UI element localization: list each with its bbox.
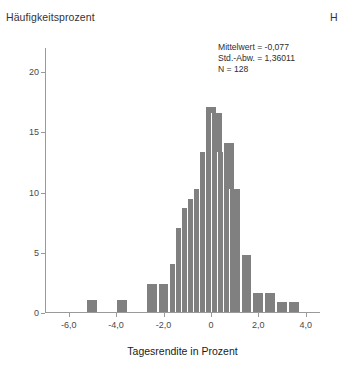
x-tick-mark	[211, 313, 212, 317]
histogram-bar	[252, 293, 264, 312]
x-tick-mark	[69, 313, 70, 317]
x-tick-label: 4,0	[300, 320, 313, 330]
x-axis-title: Tagesrendite in Prozent	[45, 345, 320, 357]
y-tick-label: 20	[29, 67, 39, 77]
histogram-bar	[288, 302, 300, 312]
clipped-edge-label: H	[330, 11, 341, 23]
x-tick-label: -6,0	[61, 320, 77, 330]
x-tick-label: -2,0	[156, 320, 172, 330]
histogram-bar	[264, 293, 276, 312]
y-tick-label: 10	[29, 188, 39, 198]
x-tick-mark	[116, 313, 117, 317]
histogram-plot-area: 05101520 -6,0-4,0-2,002,04,0	[45, 48, 320, 313]
x-tick-mark	[306, 313, 307, 317]
histogram-bar	[158, 284, 170, 312]
histogram-bar	[276, 302, 288, 312]
histogram-bar	[229, 189, 241, 312]
x-tick-mark	[164, 313, 165, 317]
x-tick-mark	[258, 313, 259, 317]
histogram-bar	[146, 284, 158, 312]
y-tick-label: 5	[34, 248, 39, 258]
y-tick-label: 15	[29, 127, 39, 137]
histogram-bar	[116, 300, 128, 312]
x-tick-label: 2,0	[252, 320, 265, 330]
y-axis-title: Häufigkeitsprozent	[6, 11, 95, 23]
histogram-bar	[241, 255, 253, 312]
x-tick-label: 0	[208, 320, 213, 330]
y-tick-label: 0	[34, 308, 39, 318]
histogram-bar	[86, 300, 98, 312]
y-tick-mark	[41, 313, 45, 314]
x-tick-label: -4,0	[108, 320, 124, 330]
histogram-bars	[45, 48, 320, 313]
